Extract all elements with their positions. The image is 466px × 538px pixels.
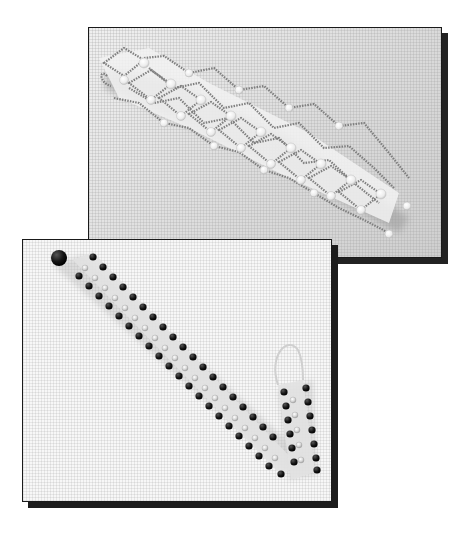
photo-lace-bracelet (88, 27, 442, 258)
photo-crystal-bracelet (22, 239, 332, 502)
crystal-bracelet-illustration (23, 240, 332, 502)
lace-bracelet-illustration (89, 28, 442, 258)
